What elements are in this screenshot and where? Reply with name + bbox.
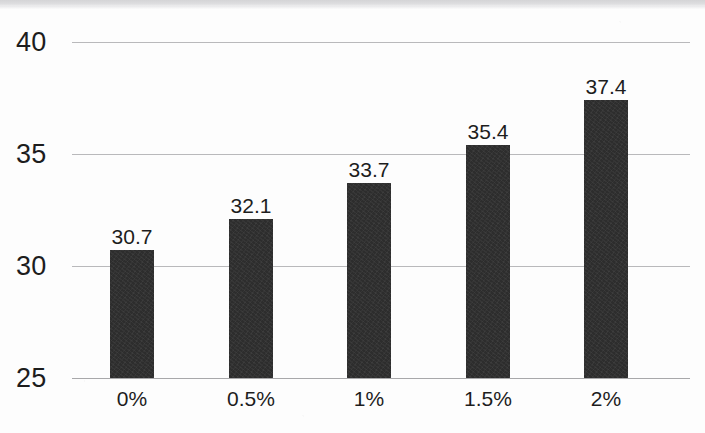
x-tick-label-2pct: 2% [551, 388, 661, 409]
value-label-1-5pct: 35.4 [443, 121, 533, 142]
bar-2pct[interactable] [584, 100, 628, 378]
x-tick-label-1pct: 1% [314, 388, 424, 409]
bar-1-5pct[interactable] [466, 145, 510, 378]
x-tick-label-1-5pct: 1.5% [433, 388, 543, 409]
bar-chart-plot-area: 40 35 30 25 30.7 32.1 33.7 35.4 37.4 0% … [0, 0, 705, 433]
chart-page: 40 35 30 25 30.7 32.1 33.7 35.4 37.4 0% … [0, 0, 705, 433]
y-tick-label-35: 35 [16, 141, 64, 168]
y-tick-label-30: 30 [16, 253, 64, 280]
value-label-0pct: 30.7 [87, 226, 177, 247]
gridline-40 [72, 42, 690, 43]
x-axis-line [72, 378, 690, 379]
x-tick-label-0pct: 0% [77, 388, 187, 409]
bar-0-5pct[interactable] [229, 219, 273, 378]
value-label-2pct: 37.4 [561, 76, 651, 97]
x-tick-label-0-5pct: 0.5% [196, 388, 306, 409]
y-tick-label-25: 25 [16, 365, 64, 392]
bar-0pct[interactable] [110, 250, 154, 378]
value-label-1pct: 33.7 [324, 159, 414, 180]
bar-1pct[interactable] [347, 183, 391, 378]
y-tick-label-40: 40 [16, 29, 64, 56]
value-label-0-5pct: 32.1 [206, 195, 296, 216]
